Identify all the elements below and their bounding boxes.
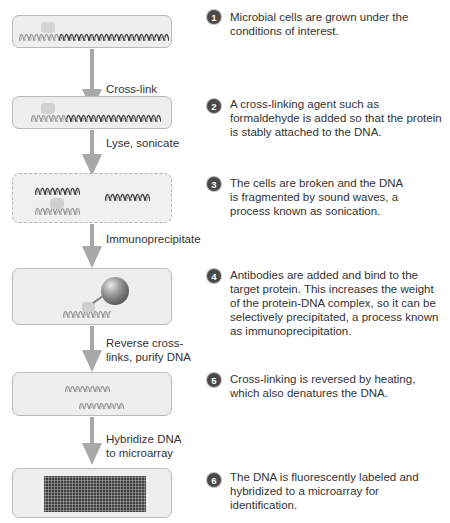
step-3-panel [12,173,172,223]
step-2-panel [12,96,172,129]
transition-label: Hybridize DNA to microarray [106,432,191,460]
dna-fragment-icon [105,188,150,202]
step-6-panel [12,468,172,518]
step-badge: 1 [207,10,221,24]
protein-blob-icon [50,198,64,209]
antibody-bead-icon [101,277,129,305]
step-description: Cross-linking is reversed by heating, wh… [230,372,445,400]
step-description: The DNA is fluorescently labeled and hyb… [230,470,445,512]
down-arrow-icon [84,224,100,270]
step-badge: 4 [207,269,221,283]
microarray-chip-icon [44,476,146,512]
step-badge: 6 [207,473,221,487]
down-arrow-icon [84,417,100,467]
dna-single-strand-icon [65,380,110,392]
transition-label: Cross-link [106,82,157,96]
step-description: A cross-linking agent such as formaldehy… [230,97,445,139]
step-description: The cells are broken and the DNA is frag… [230,176,410,218]
step-description: Antibodies are added and bind to the tar… [230,268,445,338]
down-arrow-icon [84,326,100,372]
transition-label: Lyse, sonicate [106,136,179,150]
protein-blob-icon [41,103,55,114]
step-badge: 2 [207,99,221,113]
protein-blob-icon [41,22,55,33]
step-4-panel [12,268,172,325]
transition-label: Reverse cross-links, purify DNA [106,336,196,364]
dna-single-strand-icon [79,397,124,409]
down-arrow-icon [84,130,100,175]
step-1-panel [12,15,172,48]
step-description: Microbial cells are grown under the cond… [230,10,445,38]
step-badge: 5 [207,373,221,387]
transition-label: Immunoprecipitate [106,232,201,246]
dna-fragment-icon [35,182,80,196]
step-badge: 3 [207,177,221,191]
step-5-panel [12,372,172,416]
